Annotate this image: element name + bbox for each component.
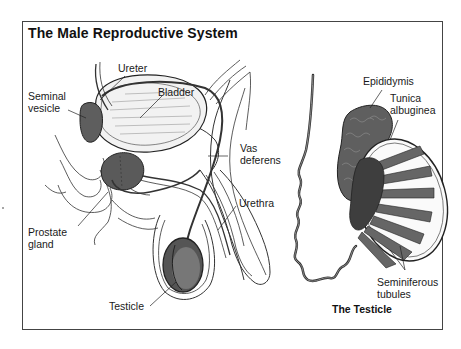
scan-artifact-dot [2,207,4,209]
seminal-vesicle [80,102,103,142]
label-ureter: Ureter [118,62,147,74]
label-epididymis: Epididymis [363,75,414,87]
label-urethra: Urethra [239,197,274,209]
label-seminal-vesicle: Seminal vesicle [28,90,66,114]
diagram-title: The Male Reproductive System [28,25,238,41]
label-vas-deferens: Vas deferens [240,142,281,166]
label-testicle: Testicle [109,300,144,312]
prostate-gland [101,153,144,190]
label-seminiferous-tubules: Seminiferous tubules [377,276,438,300]
label-prostate-gland: Prostate gland [28,226,67,250]
testicle [163,238,203,292]
label-tunica-albuginea: Tunica albuginea [390,92,436,116]
label-bladder: Bladder [158,86,194,98]
detail-caption: The Testicle [332,303,392,315]
